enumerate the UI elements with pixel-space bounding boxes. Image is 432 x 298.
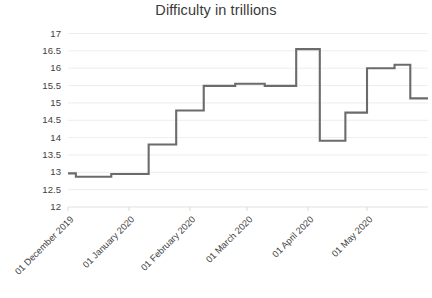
x-axis-tick-label: 01 April 2020 [270,214,315,259]
x-axis-tick-label: 01 January 2020 [81,214,136,269]
y-axis-tick-labels: 1212.51313.51414.51515.51616.517 [42,28,61,213]
x-axis-tick-marks [68,207,367,211]
y-axis-tick-label: 16.5 [42,45,61,56]
x-axis-tick-label: 01 December 2019 [13,214,75,276]
y-axis-tick-label: 13.5 [42,149,61,160]
y-axis-tick-label: 14.5 [42,114,61,125]
x-axis-tick-labels: 01 December 201901 January 202001 Februa… [13,214,374,276]
y-axis-tick-label: 12.5 [42,184,61,195]
y-axis-tick-label: 15.5 [42,80,61,91]
x-axis-tick-label: 01 May 2020 [330,214,375,259]
y-axis-tick-label: 16 [50,62,61,73]
y-axis-tick-label: 15 [50,97,61,108]
y-axis-tick-label: 14 [50,132,61,143]
y-axis-tick-label: 17 [50,28,61,39]
y-gridlines [68,34,428,208]
difficulty-line-chart: 1212.51313.51414.51515.51616.517 01 Dece… [0,0,432,298]
y-axis-tick-label: 12 [50,201,61,212]
y-axis-tick-label: 13 [50,166,61,177]
chart-container: Difficulty in trillions 1212.51313.51414… [0,0,432,298]
x-axis-tick-label: 01 February 2020 [139,214,197,272]
x-axis-tick-label: 01 March 2020 [204,214,254,264]
